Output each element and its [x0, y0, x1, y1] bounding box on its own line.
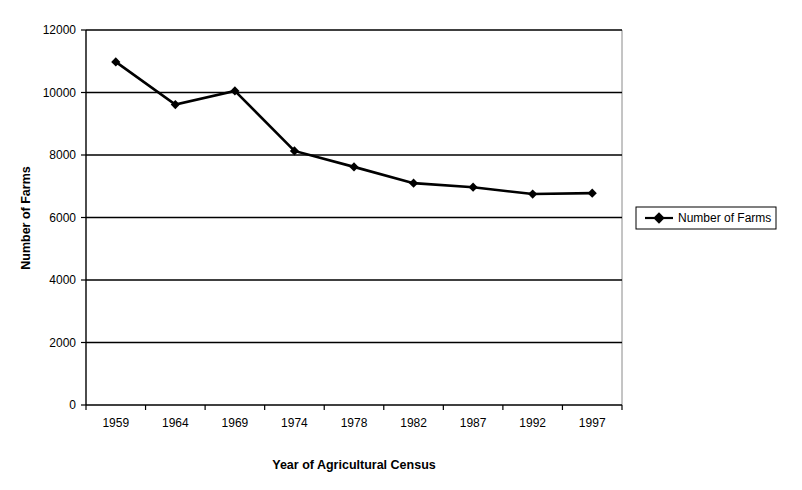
y-tick-label-8000: 8000 — [49, 148, 76, 162]
y-tick-label-0: 0 — [69, 398, 76, 412]
legend-label-number-of-farms: Number of Farms — [678, 211, 771, 225]
y-tick-label-12000: 12000 — [43, 23, 77, 37]
x-tick-label-1964: 1964 — [162, 416, 189, 430]
y-tick-label-2000: 2000 — [49, 336, 76, 350]
y-axis-ticks: 020004000600080001000012000 — [43, 23, 86, 412]
x-axis-ticks — [86, 405, 622, 410]
chart-canvas: 020004000600080001000012000 195919641969… — [0, 0, 802, 490]
y-axis-title: Number of Farms — [19, 166, 33, 270]
x-tick-label-1997: 1997 — [579, 416, 606, 430]
chart-legend[interactable]: Number of Farms — [636, 207, 776, 229]
x-tick-label-1959: 1959 — [102, 416, 129, 430]
x-tick-label-1974: 1974 — [281, 416, 308, 430]
x-tick-label-1978: 1978 — [341, 416, 368, 430]
x-axis-tick-labels: 195919641969197419781982198719921997 — [102, 416, 605, 430]
x-tick-label-1992: 1992 — [519, 416, 546, 430]
y-tick-label-4000: 4000 — [49, 273, 76, 287]
x-tick-label-1982: 1982 — [400, 416, 427, 430]
line-chart: 020004000600080001000012000 195919641969… — [0, 0, 802, 490]
y-tick-label-6000: 6000 — [49, 211, 76, 225]
x-axis-title: Year of Agricultural Census — [272, 458, 436, 472]
y-tick-label-10000: 10000 — [43, 86, 77, 100]
x-tick-label-1969: 1969 — [222, 416, 249, 430]
x-tick-label-1987: 1987 — [460, 416, 487, 430]
